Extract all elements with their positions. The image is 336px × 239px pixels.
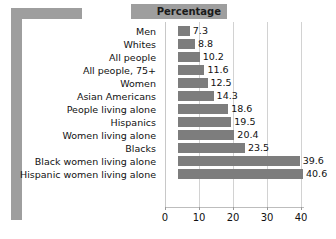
category-label: Hispanics [111,116,156,129]
category-label: Asian Americans [77,90,156,103]
bar-row: People living alone18.6 [0,103,336,116]
bar-row: Hispanic women living alone40.6 [0,168,336,181]
category-label: Women [120,77,156,90]
category-label: Black women living alone [35,155,156,168]
bar-value-label: 40.6 [306,168,327,180]
bar-value-label: 20.4 [237,129,258,141]
bar [178,143,245,153]
bar [178,130,234,140]
bar-rows: Men7.3Whites8.8All people10.2All people,… [0,25,336,181]
category-label: People living alone [67,103,156,116]
bar-value-label: 14.3 [217,90,238,102]
bar-value-label: 11.6 [207,64,228,76]
category-label: Hispanic women living alone [20,168,156,181]
tick-label-10: 10 [193,211,206,224]
tick-mark-10 [199,207,200,210]
chart-title: Percentage [157,5,221,18]
bar [178,117,231,127]
bar-value-label: 10.2 [203,51,224,63]
bar-row: Black women living alone39.6 [0,155,336,168]
bar-value-label: 23.5 [248,142,269,154]
tick-label-20: 20 [227,211,240,224]
plot-area: Men7.3Whites8.8All people10.2All people,… [0,22,336,239]
bar-value-label: 12.5 [211,77,232,89]
category-label: All people, 75+ [83,64,156,77]
bar-row: All people10.2 [0,51,336,64]
category-label: All people [109,51,156,64]
bar [178,91,214,101]
bar [178,26,190,36]
bar [178,156,300,166]
bar [178,39,195,49]
category-label: Whites [123,38,156,51]
bar-value-label: 8.8 [198,38,213,50]
bar-row: Hispanics19.5 [0,116,336,129]
tick-label-40: 40 [295,211,308,224]
bar-value-label: 39.6 [303,155,324,167]
bar [178,65,204,75]
chart-header-band: Percentage [131,4,227,19]
tick-label-0: 0 [162,211,168,224]
category-label: Blacks [125,142,156,155]
bar-row: Asian Americans14.3 [0,90,336,103]
tick-mark-20 [233,207,234,210]
bar-value-label: 7.3 [193,25,208,37]
bar [178,78,208,88]
decorative-frame-horizontal [11,8,82,19]
bar-row: Women12.5 [0,77,336,90]
bar-row: All people, 75+11.6 [0,64,336,77]
tick-label-30: 30 [261,211,274,224]
tick-mark-30 [267,207,268,210]
bar [178,52,200,62]
bar [178,104,228,114]
tick-mark-0 [165,207,166,210]
bar-value-label: 18.6 [231,103,252,115]
bar-row: Men7.3 [0,25,336,38]
bar-row: Blacks23.5 [0,142,336,155]
bar-chart: Percentage Men7.3Whites8.8All people10.2… [0,0,336,239]
bar-row: Women living alone20.4 [0,129,336,142]
bar-value-label: 19.5 [234,116,255,128]
category-label: Men [136,25,156,38]
tick-mark-40 [301,207,302,210]
x-axis-line [165,207,304,208]
category-label: Women living alone [62,129,156,142]
bar-row: Whites8.8 [0,38,336,51]
bar [178,169,303,179]
